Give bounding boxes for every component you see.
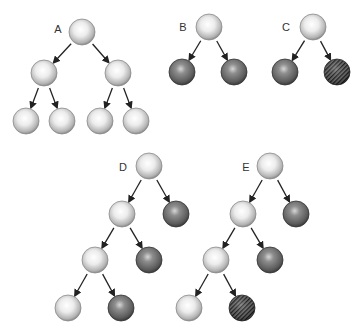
node-d0-light [136,153,162,179]
arrow-e3-e5 [196,274,208,296]
labels-layer: ABCDE [54,21,290,173]
node-e1-light [230,201,256,227]
arrow-e3-e6 [224,274,236,296]
arrow-e1-e4 [251,228,263,248]
node-b1-dark [169,59,195,85]
node-a0-light [69,19,95,45]
node-e5-light [176,295,202,321]
tree-label-e: E [242,161,249,173]
arrow-e1-e3 [223,228,235,248]
arrow-a1-a3 [31,88,38,108]
node-e4-dark [257,247,283,273]
tree-label-c: C [282,21,290,33]
node-a4-light [49,108,75,134]
node-d6-dark [108,295,134,321]
arrow-b0-b1 [189,41,201,60]
arrow-d1-d4 [130,228,142,248]
node-e0-light [257,153,283,179]
node-b2-dark [221,59,247,85]
arrow-a1-a4 [50,88,57,108]
tree-diagram: ABCDE [0,0,360,332]
node-d2-dark [163,201,189,227]
nodes-layer [13,14,350,321]
arrow-b0-b2 [217,41,227,60]
arrow-d1-d3 [102,228,114,248]
arrow-c0-c1 [292,41,304,61]
node-e6-hatched [229,295,255,321]
arrow-a2-a6 [124,88,131,108]
arrow-d3-d6 [103,274,115,296]
node-b0-light [196,14,222,40]
node-a5-light [87,108,113,134]
node-a1-light [31,60,57,86]
node-c1-dark [272,59,298,85]
arrow-a0-a1 [54,44,72,63]
node-a2-light [105,60,131,86]
arrow-e0-e2 [278,180,290,202]
arrow-d3-d5 [75,274,87,296]
arrow-d0-d2 [157,180,169,202]
node-d3-light [82,247,108,273]
arrow-a2-a5 [105,88,112,108]
node-a3-light [13,108,39,134]
tree-label-b: B [179,21,186,33]
node-a6-light [123,108,149,134]
arrow-c0-c2 [321,41,331,60]
node-d5-light [55,295,81,321]
arrow-d0-d1 [129,180,141,202]
node-e2-dark [283,201,309,227]
node-d4-dark [136,247,162,273]
node-c2-hatched [324,59,350,85]
node-d1-light [109,201,135,227]
tree-label-a: A [54,23,62,35]
node-e3-light [203,247,229,273]
arrow-e0-e1 [250,180,262,202]
node-c0-light [300,14,326,40]
arrow-a0-a2 [93,44,109,62]
tree-label-d: D [119,161,127,173]
